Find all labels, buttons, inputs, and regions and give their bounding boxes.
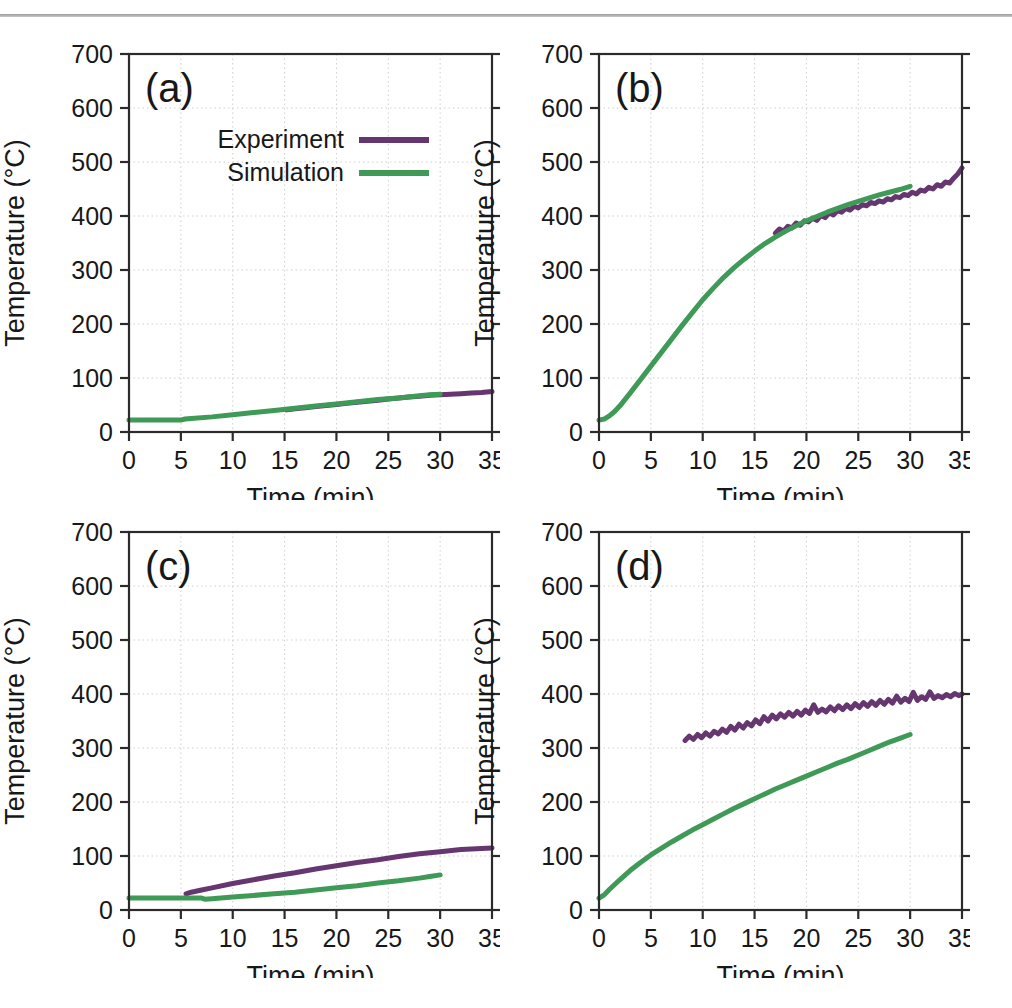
chart-svg-c: 051015202530350100200300400500600700Time…	[0, 500, 500, 978]
y-tick-label: 300	[541, 734, 583, 762]
x-tick-label: 15	[271, 446, 299, 474]
x-tick-label: 30	[426, 446, 454, 474]
figure-temperature-vs-time: 051015202530350100200300400500600700Time…	[0, 22, 1012, 1008]
y-tick-label: 100	[541, 842, 583, 870]
x-tick-label: 5	[174, 924, 188, 952]
x-axis-title: Time (min)	[717, 483, 845, 500]
x-tick-label: 25	[844, 924, 872, 952]
panel-tag: (a)	[145, 66, 194, 110]
y-tick-label: 400	[71, 680, 113, 708]
x-tick-label: 35	[948, 924, 970, 952]
legend-label-experiment: Experiment	[218, 125, 344, 153]
y-tick-label: 100	[541, 364, 583, 392]
y-tick-label: 500	[541, 148, 583, 176]
legend-label-simulation: Simulation	[227, 158, 344, 186]
chart-svg-a: 051015202530350100200300400500600700Time…	[0, 22, 500, 500]
plot-background	[129, 54, 492, 432]
x-tick-label: 20	[323, 924, 351, 952]
y-tick-label: 200	[71, 310, 113, 338]
x-tick-label: 5	[174, 446, 188, 474]
x-tick-label: 0	[122, 446, 136, 474]
y-tick-label: 400	[541, 202, 583, 230]
y-tick-label: 700	[71, 40, 113, 68]
y-tick-label: 200	[71, 788, 113, 816]
chart-panel-b: 051015202530350100200300400500600700Time…	[470, 22, 970, 500]
x-tick-label: 5	[644, 446, 658, 474]
x-tick-label: 15	[741, 446, 769, 474]
y-tick-label: 100	[71, 842, 113, 870]
chart-svg-b: 051015202530350100200300400500600700Time…	[470, 22, 970, 500]
x-tick-label: 5	[644, 924, 658, 952]
chart-panel-d: 051015202530350100200300400500600700Time…	[470, 500, 970, 978]
y-tick-label: 600	[541, 572, 583, 600]
x-tick-label: 20	[793, 924, 821, 952]
y-tick-label: 500	[541, 626, 583, 654]
y-tick-label: 600	[71, 572, 113, 600]
y-tick-label: 0	[569, 418, 583, 446]
x-tick-label: 25	[374, 446, 402, 474]
y-tick-label: 700	[541, 40, 583, 68]
y-tick-label: 700	[541, 518, 583, 546]
y-tick-label: 300	[541, 256, 583, 284]
y-tick-label: 0	[99, 896, 113, 924]
x-tick-label: 30	[896, 924, 924, 952]
panel-tag: (b)	[615, 66, 664, 110]
x-tick-label: 0	[122, 924, 136, 952]
y-axis-title: Temperature (°C)	[0, 617, 30, 824]
y-tick-label: 300	[71, 256, 113, 284]
y-tick-label: 500	[71, 626, 113, 654]
y-axis-title: Temperature (°C)	[0, 139, 30, 346]
y-tick-label: 0	[99, 418, 113, 446]
y-tick-label: 600	[71, 94, 113, 122]
x-tick-label: 10	[689, 924, 717, 952]
x-tick-label: 10	[219, 924, 247, 952]
x-axis-title: Time (min)	[717, 961, 845, 978]
x-tick-label: 20	[793, 446, 821, 474]
plot-background	[599, 54, 962, 432]
header-rule	[0, 14, 1012, 17]
y-tick-label: 400	[541, 680, 583, 708]
x-tick-label: 35	[948, 446, 970, 474]
x-tick-label: 25	[844, 446, 872, 474]
y-axis-title: Temperature (°C)	[470, 139, 500, 346]
y-tick-label: 0	[569, 896, 583, 924]
y-tick-label: 100	[71, 364, 113, 392]
y-tick-label: 300	[71, 734, 113, 762]
panel-tag: (c)	[145, 544, 192, 588]
y-tick-label: 700	[71, 518, 113, 546]
chart-panel-c: 051015202530350100200300400500600700Time…	[0, 500, 500, 978]
y-tick-label: 200	[541, 788, 583, 816]
y-tick-label: 200	[541, 310, 583, 338]
x-tick-label: 10	[219, 446, 247, 474]
x-tick-label: 30	[896, 446, 924, 474]
panel-tag: (d)	[615, 544, 664, 588]
x-axis-title: Time (min)	[247, 483, 375, 500]
chart-panel-a: 051015202530350100200300400500600700Time…	[0, 22, 500, 500]
y-tick-label: 400	[71, 202, 113, 230]
x-tick-label: 15	[271, 924, 299, 952]
x-tick-label: 25	[374, 924, 402, 952]
y-tick-label: 600	[541, 94, 583, 122]
chart-svg-d: 051015202530350100200300400500600700Time…	[470, 500, 970, 978]
x-tick-label: 15	[741, 924, 769, 952]
x-tick-label: 10	[689, 446, 717, 474]
x-axis-title: Time (min)	[247, 961, 375, 978]
y-axis-title: Temperature (°C)	[470, 617, 500, 824]
x-tick-label: 0	[592, 446, 606, 474]
x-tick-label: 0	[592, 924, 606, 952]
x-tick-label: 20	[323, 446, 351, 474]
x-tick-label: 30	[426, 924, 454, 952]
y-tick-label: 500	[71, 148, 113, 176]
